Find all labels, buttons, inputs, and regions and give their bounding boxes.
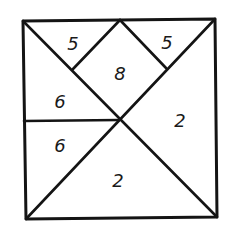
midline-left-line <box>24 120 119 121</box>
right-large-triangle-label: 2 <box>174 112 185 130</box>
top-left-small-triangle-label: 5 <box>67 35 78 53</box>
diagram-lines <box>0 0 234 231</box>
middle-square-label: 8 <box>114 65 125 83</box>
left-upper-triangle-label: 6 <box>54 93 65 111</box>
tangram-diagram <box>0 0 234 231</box>
left-lower-triangle-label: 6 <box>54 137 65 155</box>
bottom-large-triangle-label: 2 <box>112 172 123 190</box>
top-right-small-triangle-label: 5 <box>161 34 172 52</box>
top-right-small-edge-line <box>120 20 166 68</box>
top-left-small-edge-line <box>73 20 120 69</box>
